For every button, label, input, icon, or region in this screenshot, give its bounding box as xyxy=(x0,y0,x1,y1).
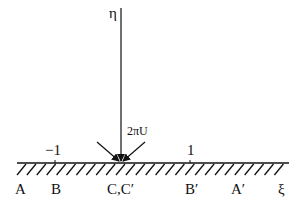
wall-hatching xyxy=(17,164,283,175)
point-label-b-prime: B′ xyxy=(185,182,198,197)
xi-label: ξ xyxy=(278,182,285,197)
diagram-graphics xyxy=(0,0,301,219)
point-label-b: B xyxy=(51,182,61,197)
point-label-a-prime: A′ xyxy=(231,182,245,197)
point-label-c: C,C′ xyxy=(107,182,134,197)
point-label-a: A xyxy=(15,182,26,197)
tick-label-one: 1 xyxy=(187,143,195,158)
left-arrow xyxy=(97,142,119,161)
tick-label-minus-one: −1 xyxy=(45,143,61,158)
flow-label: 2πU xyxy=(127,125,148,137)
diagram-canvas: η 2πU −1 1 A B C,C′ B′ A′ ξ xyxy=(0,0,301,219)
eta-label: η xyxy=(109,6,117,21)
right-arrow xyxy=(123,142,145,161)
